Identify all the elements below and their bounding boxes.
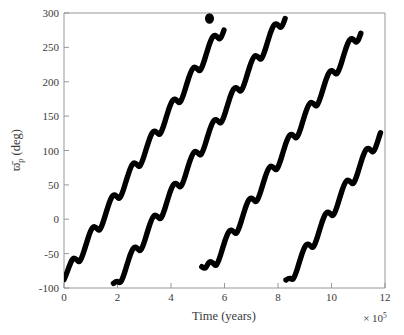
y-tick-label: 100 <box>43 145 60 157</box>
exponent-base: × 10 <box>363 312 383 324</box>
y-tick-label: 250 <box>43 41 60 53</box>
x-tick-label: 6 <box>222 291 228 303</box>
x-tick-label: 8 <box>275 291 281 303</box>
x-tick-label: 4 <box>168 291 174 303</box>
figure-container: -100 -50 0 50 100 150 200 250 300 0 2 4 … <box>0 0 404 335</box>
y-tick-label: -100 <box>39 282 60 294</box>
x-tick-label: 0 <box>61 291 67 303</box>
y-tick-label: 150 <box>43 110 60 122</box>
y-tick-label: 50 <box>48 179 60 191</box>
y-axis-title-group: ϖ̄p (deg) <box>9 129 25 171</box>
y-axis-title: ϖ̄p (deg) <box>9 129 25 171</box>
y-tick-label: 200 <box>43 76 60 88</box>
plot-svg: -100 -50 0 50 100 150 200 250 300 0 2 4 … <box>0 0 404 335</box>
y-axis-units-text: (deg) <box>9 129 23 155</box>
y-tick-label: 300 <box>43 7 60 19</box>
x-axis-title: Time (years) <box>192 309 256 323</box>
x-tick-label: 12 <box>380 291 391 303</box>
y-tick-label: -50 <box>44 248 59 260</box>
exponent-power: 5 <box>383 311 387 320</box>
isolated-point-marker <box>206 14 214 23</box>
y-tick-label: 0 <box>54 213 60 225</box>
x-tick-label: 10 <box>326 291 338 303</box>
x-tick-label: 2 <box>115 291 121 303</box>
